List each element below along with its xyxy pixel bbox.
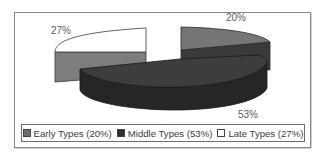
legend-label-early-types: Early Types (20%) (34, 128, 112, 139)
legend-swatch-early-icon (23, 129, 31, 137)
legend-swatch-middle-icon (117, 129, 125, 137)
data-label-early: 20% (226, 12, 246, 23)
legend-label-late-types: Late Types (27%) (228, 128, 303, 139)
legend-swatch-late-icon (217, 129, 225, 137)
data-label-late: 27% (51, 25, 71, 36)
chart-legend: Early Types (20%) Middle Types (53%) Lat… (21, 124, 305, 142)
legend-label-middle-types: Middle Types (53%) (128, 128, 213, 139)
legend-item-middle-types: Middle Types (53%) (117, 128, 213, 139)
legend-item-late-types: Late Types (27%) (217, 128, 303, 139)
data-label-middle: 53% (238, 109, 258, 120)
legend-item-early-types: Early Types (20%) (23, 128, 112, 139)
